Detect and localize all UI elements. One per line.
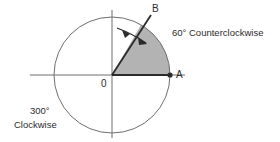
clockwise-direction-annotation: Clockwise: [14, 119, 57, 130]
point-b-label: B: [152, 3, 159, 14]
shaded-sector: [112, 25, 170, 75]
clockwise-degrees-annotation: 300°: [30, 105, 50, 116]
angle-diagram-figure: A B 0 60° Counterclockwise 300° Clockwis…: [0, 0, 280, 142]
point-a-dot: [167, 72, 172, 77]
origin-label: 0: [101, 78, 107, 89]
counterclockwise-annotation: 60° Counterclockwise: [172, 27, 263, 38]
point-a-label: A: [176, 69, 183, 80]
unit-circle-angle-diagram: A B 0 60° Counterclockwise 300° Clockwis…: [0, 0, 280, 142]
